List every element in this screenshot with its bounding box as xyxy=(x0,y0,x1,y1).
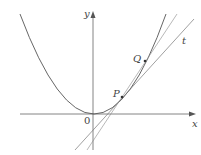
parabola-diagram: y x 0 P Q t xyxy=(0,0,201,155)
secant-line-pq xyxy=(87,14,177,150)
point-q xyxy=(144,60,147,63)
point-p-label: P xyxy=(112,88,120,99)
tangent-label: t xyxy=(182,35,187,46)
y-axis-arrow-icon xyxy=(91,11,96,18)
y-axis xyxy=(91,11,96,150)
point-q-label: Q xyxy=(133,53,141,64)
origin-label: 0 xyxy=(84,115,90,126)
x-axis-arrow-icon xyxy=(189,112,196,117)
y-axis-label: y xyxy=(83,8,90,19)
point-p xyxy=(121,96,124,99)
x-axis-label: x xyxy=(192,118,198,129)
